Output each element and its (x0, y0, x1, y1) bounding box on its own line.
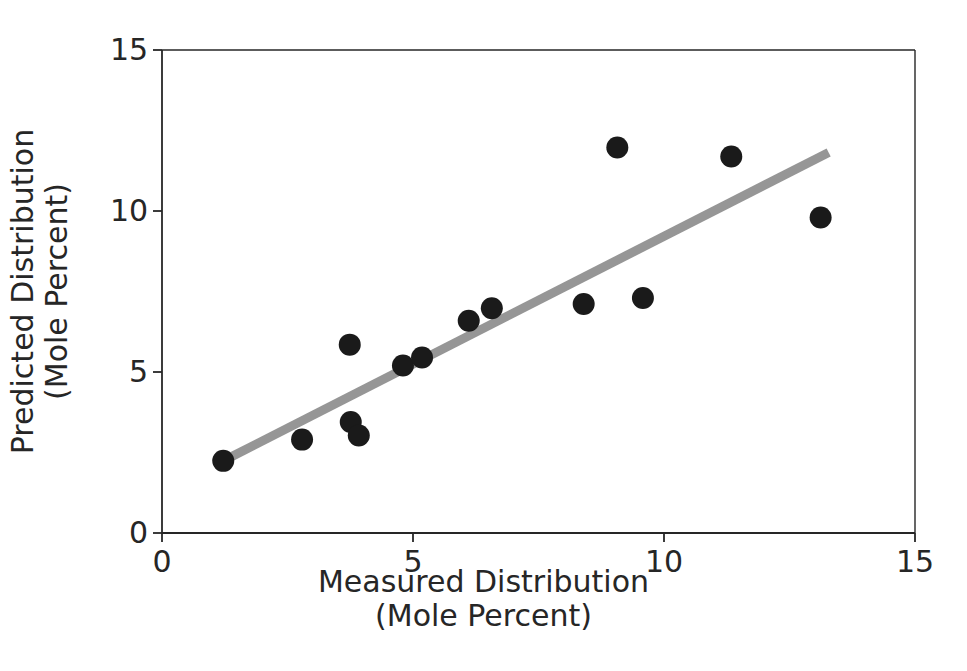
scatter-point (212, 450, 234, 472)
x-axis-title-line2: (Mole Percent) (0, 599, 967, 633)
scatter-point (291, 429, 313, 451)
trend-line-segment (223, 152, 828, 460)
scatter-point (481, 297, 503, 319)
x-axis-title: Measured Distribution (Mole Percent) (0, 565, 967, 632)
x-axis-title-line1: Measured Distribution (318, 564, 649, 599)
axis-spines (162, 50, 915, 533)
scatter-point (458, 310, 480, 332)
scatter-point (348, 424, 370, 446)
scatter-plot-figure: 0 5 10 15 0 5 10 15 Measured Distributio… (0, 0, 967, 671)
y-tick-label-0: 0 (129, 518, 148, 548)
y-tick-label-1: 5 (129, 357, 148, 387)
y-axis-title-line1: Predicted Distribution (5, 129, 40, 454)
y-axis-ticks (153, 50, 162, 533)
scatter-point (411, 347, 433, 369)
x-axis-ticks (162, 533, 915, 542)
scatter-point (573, 293, 595, 315)
scatter-point (810, 206, 832, 228)
trend-line (223, 152, 828, 460)
scatter-point (392, 355, 414, 377)
scatter-point (339, 334, 361, 356)
scatter-point (720, 146, 742, 168)
scatter-point (632, 287, 654, 309)
y-tick-label-2: 10 (110, 196, 148, 226)
scatter-point (606, 137, 628, 159)
y-axis-title-line2: (Mole Percent) (40, 50, 74, 533)
y-axis-title: Predicted Distribution (Mole Percent) (6, 50, 73, 533)
y-tick-label-3: 15 (110, 35, 148, 65)
